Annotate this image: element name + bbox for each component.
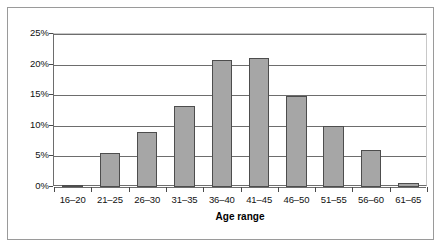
bar-slot bbox=[352, 33, 389, 187]
bar-slot bbox=[54, 33, 91, 187]
x-axis-tick-label: 31–35 bbox=[166, 194, 203, 206]
y-axis-tickmark bbox=[49, 94, 53, 95]
x-axis-tick-label: 56–60 bbox=[352, 194, 389, 206]
x-axis-tick-label: 21–25 bbox=[91, 194, 128, 206]
x-axis-title: Age range bbox=[53, 211, 427, 222]
bar-slot bbox=[278, 33, 315, 187]
bar bbox=[212, 60, 233, 187]
x-axis-tickmark bbox=[166, 187, 167, 192]
y-axis-tickmark bbox=[49, 155, 53, 156]
x-axis-tickmarks bbox=[54, 187, 427, 192]
x-axis-tickmark bbox=[278, 187, 279, 192]
x-axis-tickmark bbox=[54, 187, 55, 192]
x-axis-tickmark bbox=[203, 187, 204, 192]
y-axis-tickmark bbox=[49, 125, 53, 126]
y-axis-tickmark bbox=[49, 186, 53, 187]
y-axis-tick-label: 20% bbox=[9, 59, 49, 69]
bar-slot bbox=[240, 33, 277, 187]
x-axis-tick-label: 16–20 bbox=[54, 194, 91, 206]
bar bbox=[249, 58, 270, 187]
chart-figure: 25%20%15%10%5%0% 16–2021–2526–3031–3536–… bbox=[7, 7, 434, 240]
bar-slot bbox=[390, 33, 427, 187]
x-axis-tick-label: 26–30 bbox=[129, 194, 166, 206]
y-axis-tick-label: 10% bbox=[9, 120, 49, 130]
x-axis-tickmark bbox=[390, 187, 391, 192]
x-axis-tick-label: 36–40 bbox=[203, 194, 240, 206]
bar-slot bbox=[315, 33, 352, 187]
x-axis-tickmark bbox=[91, 187, 92, 192]
x-axis-tickmark bbox=[352, 187, 353, 192]
bar-slot bbox=[91, 33, 128, 187]
bar-slot bbox=[166, 33, 203, 187]
age-range-histogram: 25%20%15%10%5%0% 16–2021–2526–3031–3536–… bbox=[8, 8, 435, 241]
x-axis-tickmark bbox=[427, 187, 428, 192]
x-axis-tick-label: 41–45 bbox=[240, 194, 277, 206]
y-axis-tick-label: 15% bbox=[9, 89, 49, 99]
bar bbox=[174, 106, 195, 187]
y-axis: 25%20%15%10%5%0% bbox=[8, 33, 49, 186]
bar bbox=[100, 153, 121, 187]
x-axis-tickmark bbox=[241, 187, 242, 192]
x-axis-tickmark bbox=[315, 187, 316, 192]
bar bbox=[323, 126, 344, 187]
y-axis-tick-label: 5% bbox=[9, 150, 49, 160]
y-axis-tickmark bbox=[49, 64, 53, 65]
x-axis-tickmark bbox=[129, 187, 130, 192]
x-axis-labels: 16–2021–2526–3031–3536–4041–4546–5051–55… bbox=[54, 194, 427, 206]
bar bbox=[361, 150, 382, 187]
bar-slot bbox=[203, 33, 240, 187]
bar-series bbox=[54, 33, 427, 187]
y-axis-tick-label: 0% bbox=[9, 181, 49, 191]
bar-slot bbox=[129, 33, 166, 187]
bar bbox=[286, 96, 307, 187]
x-axis-tick-label: 46–50 bbox=[278, 194, 315, 206]
x-axis-tick-label: 61–65 bbox=[390, 194, 427, 206]
y-axis-tick-label: 25% bbox=[9, 28, 49, 38]
bar bbox=[137, 132, 158, 187]
y-axis-tickmark bbox=[49, 33, 53, 34]
x-axis-tick-label: 51–55 bbox=[315, 194, 352, 206]
